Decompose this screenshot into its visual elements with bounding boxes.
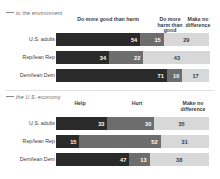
row-label: Dem/lean Dem (0, 72, 55, 78)
bar-segment: 52 (79, 135, 160, 148)
table-row: Rep/lean Rep155231 (0, 135, 220, 148)
bar-segment: 47 (56, 153, 129, 166)
panel-subtitle-environment: to the environment (6, 10, 62, 16)
bar-segment: 35 (154, 117, 209, 130)
bar-segment: 33 (56, 117, 107, 130)
bar-segment: 30 (107, 117, 154, 130)
column-headers-environment: Do more good than harm Do more harm than… (0, 17, 220, 33)
bar-segment: 22 (109, 51, 143, 64)
bar-segment: 34 (56, 51, 109, 64)
table-row: Dem/lean Dem711017 (0, 69, 220, 82)
column-header: Do more harm than good (155, 17, 185, 34)
stacked-bar: 471338 (56, 153, 212, 166)
column-headers-economy: Help Hurt Make no difference (0, 101, 220, 117)
table-row: U.S. adults333035 (0, 117, 220, 130)
stacked-bar: 333035 (56, 117, 212, 130)
stacked-bar: 342243 (56, 51, 212, 64)
column-header: Do more good than harm (60, 17, 156, 23)
subtitle-dash-icon (6, 96, 14, 97)
bar-segment: 38 (150, 153, 209, 166)
bar-segment: 29 (164, 33, 209, 46)
column-header: Make no difference (176, 101, 210, 112)
column-header: Hurt (122, 101, 152, 107)
bar-segment: 43 (143, 51, 210, 64)
bar-segment: 15 (140, 33, 163, 46)
panel-subtitle-text: to the environment (16, 10, 62, 16)
panel-subtitle-economy: the U.S. economy (6, 94, 60, 100)
bar-segment: 10 (167, 69, 183, 82)
chart-page: · · · · to the environment Do more good … (0, 0, 220, 179)
table-row: U.S. adults541529 (0, 33, 220, 46)
cropped-top-line: · · · · (22, 0, 122, 5)
row-label: Dem/lean Dem (0, 156, 55, 162)
stacked-bar: 155231 (56, 135, 212, 148)
bar-segment: 15 (56, 135, 79, 148)
table-row: Rep/lean Rep342243 (0, 51, 220, 64)
bar-segment: 31 (161, 135, 209, 148)
panel-subtitle-text: the U.S. economy (16, 94, 60, 100)
table-row: Dem/lean Dem471338 (0, 153, 220, 166)
row-label: Rep/lean Rep (0, 54, 55, 60)
bar-segment: 54 (56, 33, 140, 46)
subtitle-dash-icon (6, 12, 14, 13)
bar-segment: 13 (129, 153, 149, 166)
column-header: Help (60, 101, 100, 107)
panel-divider (6, 90, 214, 91)
row-label: U.S. adults (0, 36, 55, 42)
bar-segment: 71 (56, 69, 167, 82)
bar-segment: 17 (182, 69, 209, 82)
stacked-bar: 711017 (56, 69, 212, 82)
column-header: Make no difference (182, 17, 214, 28)
row-label: U.S. adults (0, 120, 55, 126)
stacked-bar: 541529 (56, 33, 212, 46)
row-label: Rep/lean Rep (0, 138, 55, 144)
